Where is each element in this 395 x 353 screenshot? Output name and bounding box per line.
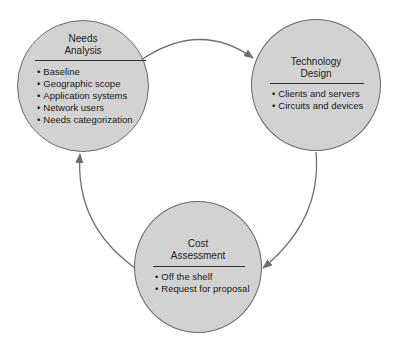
list-item: Geographic scope (37, 78, 133, 90)
list-item: Request for proposal (155, 283, 250, 295)
title-line: Analysis (18, 45, 148, 57)
arrow-needs-to-technology (141, 39, 253, 60)
node-cost-assessment: Cost Assessment Off the shelf Request fo… (134, 201, 262, 333)
title-line: Technology (252, 56, 380, 68)
bullet-list: Off the shelf Request for proposal (155, 271, 250, 295)
list-item: Clients and servers (272, 88, 363, 100)
list-item: Needs categorization (37, 114, 133, 126)
list-item: Off the shelf (155, 271, 250, 283)
node-needs-analysis: Needs Analysis Baseline Geographic scope… (17, 20, 149, 152)
title-line: Design (252, 68, 380, 80)
node-technology-design: Technology Design Clients and servers Ci… (251, 19, 381, 151)
title-line: Assessment (135, 250, 261, 262)
bullet-list: Clients and servers Circuits and devices (272, 88, 363, 112)
title-line: Cost (135, 238, 261, 250)
node-title: Needs Analysis (18, 33, 148, 57)
node-title: Technology Design (252, 56, 380, 80)
divider (35, 60, 146, 61)
list-item: Circuits and devices (272, 100, 363, 112)
list-item: Application systems (37, 90, 133, 102)
title-line: Needs (18, 33, 148, 45)
divider (153, 266, 245, 267)
node-title: Cost Assessment (135, 238, 261, 262)
bullet-list: Baseline Geographic scope Application sy… (37, 66, 133, 126)
list-item: Baseline (37, 66, 133, 78)
list-item: Network users (37, 102, 133, 114)
divider (270, 83, 364, 84)
arrow-cost-to-needs (80, 154, 135, 268)
arrow-technology-to-cost (263, 152, 317, 268)
